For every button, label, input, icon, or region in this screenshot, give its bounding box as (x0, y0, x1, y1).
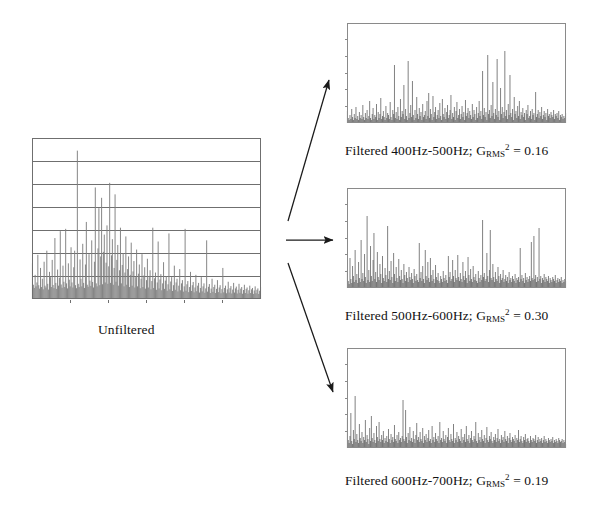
chart-filtered-500-600-canvas (342, 186, 568, 293)
caption-filtered-500-600-prefix: Filtered 500Hz-600Hz; G (345, 308, 486, 323)
figure-root: Unfiltered Filtered 400Hz-500Hz; GRMS2 =… (0, 0, 590, 509)
caption-filtered-600-700-sub: RMS (486, 479, 505, 489)
caption-filtered-600-700-value: = 0.19 (513, 473, 548, 488)
arrow-to-bottom (288, 263, 333, 392)
chart-unfiltered-canvas (28, 136, 263, 303)
caption-filtered-400-500-value: = 0.16 (513, 143, 548, 158)
caption-filtered-500-600: Filtered 500Hz-600Hz; GRMS2 = 0.30 (345, 307, 548, 324)
chart-filtered-400-500 (342, 21, 568, 128)
caption-filtered-400-500-sub: RMS (486, 149, 505, 159)
caption-filtered-400-500-prefix: Filtered 400Hz-500Hz; G (345, 143, 486, 158)
caption-filtered-600-700-sup: 2 (505, 472, 510, 482)
caption-filtered-400-500: Filtered 400Hz-500Hz; GRMS2 = 0.16 (345, 142, 548, 159)
caption-filtered-400-500-sup: 2 (505, 142, 510, 152)
caption-filtered-600-700: Filtered 600Hz-700Hz; GRMS2 = 0.19 (345, 472, 548, 489)
caption-filtered-500-600-sub: RMS (486, 314, 505, 324)
chart-unfiltered (28, 136, 263, 303)
chart-filtered-600-700-canvas (342, 346, 568, 453)
caption-filtered-600-700-prefix: Filtered 600Hz-700Hz; G (345, 473, 486, 488)
caption-filtered-500-600-sup: 2 (505, 307, 510, 317)
caption-unfiltered: Unfiltered (98, 322, 154, 338)
caption-filtered-500-600-value: = 0.30 (513, 308, 548, 323)
chart-filtered-600-700 (342, 346, 568, 453)
arrow-to-top (288, 80, 329, 221)
chart-filtered-400-500-canvas (342, 21, 568, 128)
chart-filtered-500-600 (342, 186, 568, 293)
